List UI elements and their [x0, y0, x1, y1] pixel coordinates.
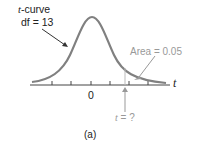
area-label: Area = 0.05 [130, 46, 182, 58]
axis-label: t [173, 77, 176, 89]
figure-caption: (a) [84, 129, 96, 141]
curve-label-arrow-line [42, 29, 65, 45]
critical-label-rest: = ? [118, 112, 135, 123]
curve-label-rest: -curve [21, 3, 50, 15]
df-label: df = 13 [21, 16, 53, 28]
critical-value-label: t = ? [115, 112, 135, 124]
critical-arrow-icon [122, 87, 128, 92]
curve-label-arrow-icon [62, 42, 68, 47]
axis-ticks [52, 81, 148, 85]
zero-tick-label: 0 [88, 89, 94, 101]
area-leader-line [139, 56, 155, 77]
curve-label: t-curve [18, 3, 50, 16]
